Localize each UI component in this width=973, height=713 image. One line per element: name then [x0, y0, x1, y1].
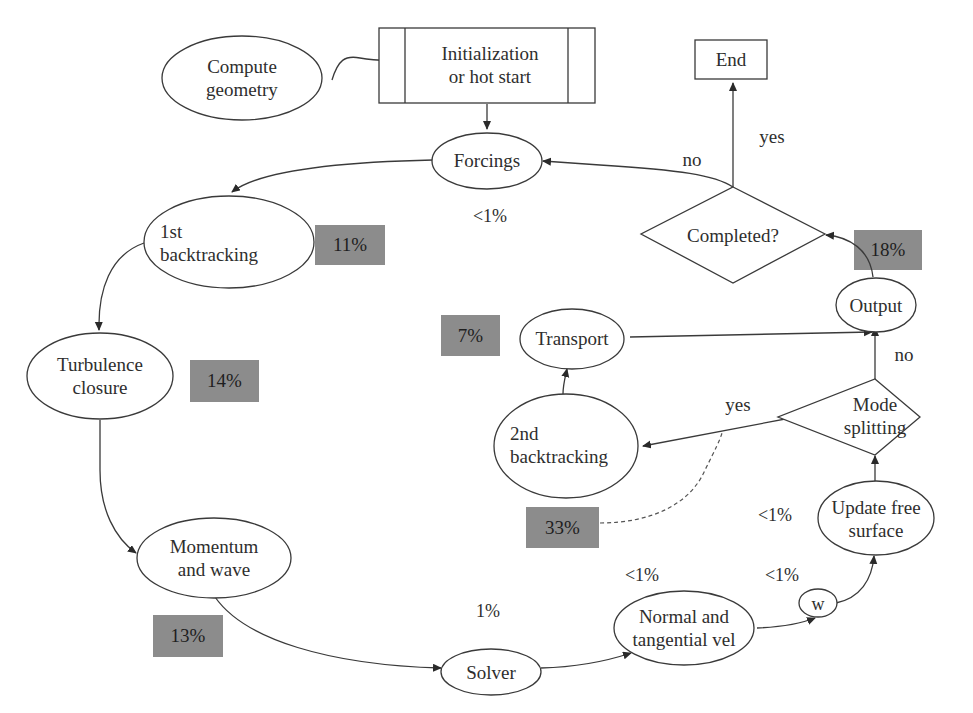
label-w: w [800, 593, 836, 616]
label-line: closure [30, 376, 170, 399]
label-second-backtracking: 2nd backtracking [510, 422, 640, 468]
percent-momentum-wave: 13% [153, 625, 223, 647]
label-completed: Completed? [663, 224, 803, 247]
label-line: backtracking [160, 243, 290, 266]
label-end: End [695, 48, 767, 71]
label-line: 2nd [510, 422, 640, 445]
percent-first-backtracking: 11% [315, 234, 385, 256]
edge-label-completed-yes: yes [752, 125, 792, 148]
label-line: Compute [172, 55, 312, 78]
percent-normal-tangential: <1% [617, 564, 667, 587]
edge-mode-backtrack2 [643, 417, 796, 446]
edge-solver-normal [541, 653, 631, 668]
label-line: and wave [144, 558, 284, 581]
label-first-backtracking: 1st backtracking [160, 220, 290, 266]
edge-turbulence-momentum [100, 420, 136, 553]
edge-w-update [836, 556, 874, 603]
edge-transport-output [630, 332, 872, 337]
label-line: backtracking [510, 445, 640, 468]
label-line: 1st [160, 220, 290, 243]
label-line: Initialization [410, 42, 570, 65]
label-line: Turbulence [30, 353, 170, 376]
label-line: or hot start [410, 65, 570, 88]
label-transport: Transport [520, 327, 624, 350]
edge-label-completed-no: no [672, 148, 712, 171]
percent-w: <1% [757, 564, 807, 587]
label-line: splitting [815, 416, 935, 439]
percent-output: 18% [854, 239, 922, 261]
label-mode-splitting: Mode splitting [815, 393, 935, 439]
percent-turbulence-closure: 14% [190, 370, 259, 392]
edge-normal-w [757, 618, 815, 628]
label-output: Output [836, 294, 916, 317]
edge-label-mode-yes: yes [718, 393, 758, 416]
label-line: geometry [172, 78, 312, 101]
edge-label-mode-no: no [884, 343, 924, 366]
label-turbulence-closure: Turbulence closure [30, 353, 170, 399]
percent-forcings: <1% [465, 205, 515, 228]
label-compute-geometry: Compute geometry [172, 55, 312, 101]
label-update-free-surface: Update free surface [816, 496, 936, 542]
percent-transport: 7% [441, 325, 500, 347]
label-line: surface [816, 519, 936, 542]
percent-solver: 1% [463, 600, 513, 623]
label-forcings: Forcings [432, 149, 542, 172]
percent-update-free-surface: <1% [750, 504, 800, 527]
label-line: Update free [816, 496, 936, 519]
label-initialization: Initialization or hot start [410, 42, 570, 88]
label-line: tangential vel [612, 628, 756, 651]
edge-forcings-backtrack1 [232, 160, 433, 192]
edge-backtrack2-transport [563, 369, 567, 394]
percent-second-backtracking: 33% [526, 517, 599, 539]
label-solver: Solver [441, 661, 541, 684]
edge-momentum-solver [215, 597, 441, 668]
label-momentum-wave: Momentum and wave [144, 535, 284, 581]
label-line: Momentum [144, 535, 284, 558]
edge-backtrack1-turbulence [99, 243, 144, 330]
label-line: Normal and [612, 605, 756, 628]
label-line: Mode [815, 393, 935, 416]
label-normal-tangential: Normal and tangential vel [612, 605, 756, 651]
